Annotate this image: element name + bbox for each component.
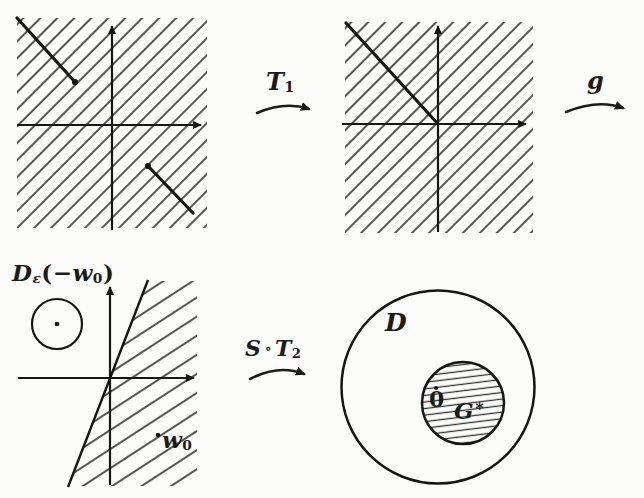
map-arrow-st2-icon bbox=[242, 358, 318, 384]
panel-halfplane-with-epsilon-disk bbox=[8, 258, 208, 498]
d-eps-close: ) bbox=[103, 259, 114, 286]
d-eps-sub: ε bbox=[32, 270, 41, 286]
d-eps-open: (− bbox=[41, 259, 72, 286]
label-map-s-compose-t2: S∘T2 bbox=[245, 337, 302, 360]
map-arrow-g-icon bbox=[558, 96, 638, 120]
d-eps-w: w bbox=[73, 259, 93, 286]
curved-arrow bbox=[566, 104, 623, 112]
gstar-base: G bbox=[454, 397, 474, 424]
label-epsilon-disk: Dε(−w0) bbox=[12, 261, 114, 286]
slit-endpoint-dot-upper bbox=[72, 79, 78, 85]
d-eps-base: D bbox=[12, 259, 32, 286]
g-base: g bbox=[587, 66, 604, 95]
label-w0-point: w0 bbox=[162, 428, 192, 453]
w0-base: w bbox=[162, 426, 182, 453]
label-gstar: G* bbox=[454, 399, 484, 422]
t1-sub: 1 bbox=[284, 78, 295, 95]
disk-d-base: D bbox=[385, 308, 407, 337]
epsilon-disk-center-dot bbox=[55, 322, 60, 327]
riemann-mapping-construction-figure: T1 g bbox=[0, 0, 644, 498]
t1-base: T bbox=[266, 67, 284, 96]
label-origin-zero: 0 bbox=[429, 388, 445, 410]
gstar-asterisk: * bbox=[474, 398, 484, 418]
w0-sub: 0 bbox=[182, 437, 192, 453]
curved-arrow bbox=[250, 370, 304, 379]
label-map-g: g bbox=[587, 69, 604, 93]
panel-hatched-plane-diagonal-slit bbox=[340, 8, 544, 238]
curved-arrow bbox=[257, 106, 309, 113]
d-eps-wsub: 0 bbox=[93, 270, 103, 286]
hatched-halfplane-region bbox=[68, 281, 197, 486]
label-disk-d: D bbox=[385, 310, 407, 335]
label-map-t1: T1 bbox=[266, 70, 295, 95]
composition-operator: ∘ bbox=[261, 340, 275, 356]
zero-base: 0 bbox=[429, 386, 445, 412]
w0-point-dot bbox=[156, 433, 161, 438]
map-arrow-t1-icon bbox=[250, 98, 320, 120]
panel-hatched-plane-with-slits bbox=[8, 8, 220, 238]
